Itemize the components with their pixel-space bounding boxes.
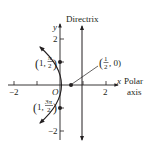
x-tick-label-2: 2 — [103, 87, 108, 97]
y-tick-label-2: 2 — [53, 34, 58, 44]
polar-parabola-diagram: −2 2 2 −2 y x Polar axis O Directrix ( 1… — [0, 0, 154, 155]
svg-text:, 0): , 0) — [109, 58, 121, 68]
point-bottom — [58, 106, 62, 110]
svg-text:1,: 1, — [37, 102, 44, 112]
x-axis-label: x — [116, 76, 121, 86]
svg-text:2: 2 — [47, 106, 51, 114]
vertex-leader-line — [72, 66, 98, 84]
vertex-label: ( 1 2 , 0) — [99, 55, 121, 71]
y-axis-label: y — [52, 22, 57, 32]
polar-axis-label-line1: Polar — [124, 76, 143, 86]
y-tick-label-neg2: −2 — [48, 126, 58, 136]
svg-text:2: 2 — [48, 62, 52, 70]
svg-text:3π: 3π — [44, 98, 53, 106]
top-point-label: ( 1, π 2 ) — [35, 54, 57, 71]
svg-text:2: 2 — [104, 63, 108, 71]
origin-label: O — [52, 87, 59, 97]
svg-text:(: ( — [99, 56, 103, 70]
polar-axis-label-line2: axis — [127, 87, 142, 97]
svg-text:): ) — [53, 57, 57, 71]
point-top — [58, 60, 62, 64]
svg-text:1,: 1, — [39, 58, 46, 68]
x-tick-label-neg2: −2 — [9, 87, 19, 97]
directrix-label: Directrix — [66, 14, 99, 24]
svg-text:π: π — [48, 54, 52, 62]
svg-text:): ) — [53, 101, 57, 115]
bottom-point-label: ( 1, 3π 2 ) — [33, 98, 57, 115]
svg-text:1: 1 — [104, 55, 108, 63]
